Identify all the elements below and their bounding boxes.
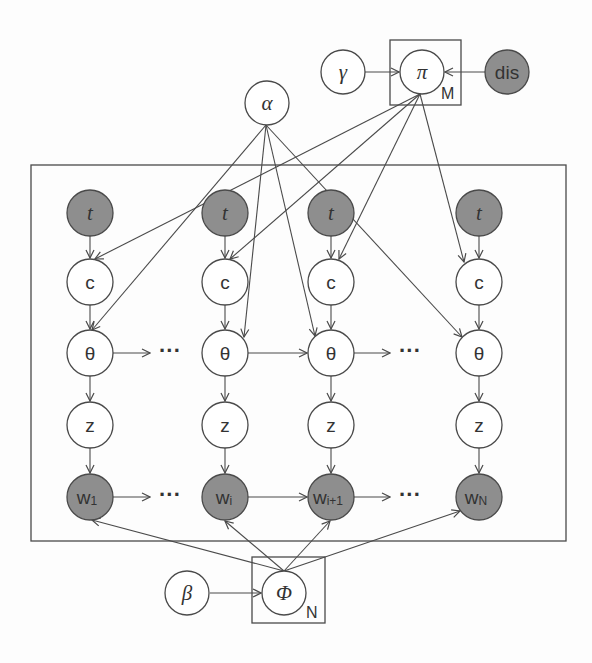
node-gamma: γ [321,50,365,94]
theta-ellipsis-1: ··· [159,338,181,363]
w-ellipsis-2: ··· [399,482,421,507]
svg-text:γ: γ [339,60,348,84]
theta-ellipsis-2: ··· [399,338,421,363]
svg-text:β: β [181,581,193,605]
svg-text:z: z [474,415,484,436]
edges [90,72,485,593]
svg-text:c: c [220,272,230,293]
svg-text:z: z [85,415,95,436]
svg-text:θ: θ [220,343,231,364]
svg-text:z: z [326,415,336,436]
svg-text:z: z [220,415,230,436]
n-plate-label: N [306,604,318,621]
svg-text:c: c [85,272,95,293]
m-plate-label: M [441,85,454,102]
node-pi: π [400,50,444,94]
svg-text:θ: θ [326,343,337,364]
svg-text:π: π [417,60,428,84]
node-dis: dis [485,50,529,94]
svg-text:α: α [261,91,273,115]
node-beta: β [165,571,209,615]
svg-text:dis: dis [495,62,519,83]
node-phi: Φ [262,571,306,615]
svg-text:c: c [326,272,336,293]
svg-text:θ: θ [474,343,485,364]
svg-text:c: c [474,272,484,293]
svg-text:θ: θ [85,343,96,364]
graphical-model-diagram: M N [0,0,592,663]
w-ellipsis-1: ··· [159,482,181,507]
svg-text:Φ: Φ [276,581,292,605]
node-alpha: α [245,81,289,125]
